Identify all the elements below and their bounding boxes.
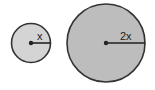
circles-diagram: x 2x [0, 0, 155, 90]
small-center-dot [29, 41, 33, 45]
large-circle-group: 2x [67, 4, 145, 82]
small-radius-label: x [37, 30, 43, 42]
small-circle-group: x [12, 24, 51, 63]
large-radius-label: 2x [120, 30, 132, 42]
large-center-dot [104, 41, 108, 45]
